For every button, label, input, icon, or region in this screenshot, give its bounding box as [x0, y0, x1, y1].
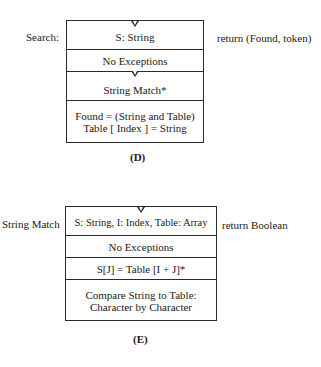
diagram-e-return-label: return Boolean — [222, 219, 288, 231]
diagram-e-exceptions-row: No Exceptions — [66, 235, 216, 258]
entry-arrow-icon — [131, 21, 139, 27]
diagram-e-body-row: Compare String to Table: Character by Ch… — [66, 279, 216, 321]
diagram-d-exceptions-row: No Exceptions — [67, 49, 203, 72]
call-arrow-icon — [131, 71, 139, 77]
diagram-e-body-line-2: Character by Character — [90, 301, 192, 313]
diagram-d-body-line-2: Table [ Index ] = String — [83, 122, 187, 134]
diagram-e-loop-row: S[J] = Table [I + J]* — [66, 257, 216, 280]
diagram-e-caption: (E) — [133, 333, 148, 345]
diagram-e-loop-text: S[J] = Table [I + J]* — [97, 263, 186, 275]
diagram-e-box: S: String, I: Index, Table: Array No Exc… — [65, 206, 217, 321]
diagram-e-exceptions-text: No Exceptions — [108, 241, 173, 253]
diagram-d-box: S: String No Exceptions String Match* Fo… — [66, 20, 204, 143]
diagram-d-left-label: Search: — [26, 31, 59, 43]
diagram-e-left-label: String Match — [2, 218, 60, 230]
entry-arrow-icon — [137, 207, 145, 213]
diagram-e-body-line-1: Compare String to Table: — [85, 289, 196, 301]
diagram-d-input-text: S: String — [116, 27, 155, 43]
diagram-e-input-text: S: String, I: Index, Table: Array — [75, 213, 208, 229]
diagram-d-return-label: return (Found, token) — [217, 32, 311, 44]
diagram-d-body-row: Found = (String and Table) Table [ Index… — [67, 100, 203, 143]
diagram-d-call-text: String Match* — [103, 78, 166, 96]
diagram-d-caption: (D) — [130, 151, 145, 163]
diagram-d-exceptions-text: No Exceptions — [102, 55, 167, 67]
diagram-d-body-line-1: Found = (String and Table) — [75, 110, 195, 122]
